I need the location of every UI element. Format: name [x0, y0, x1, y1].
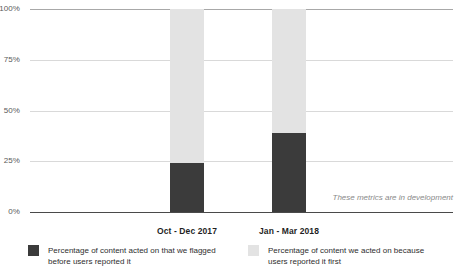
chart-legend: Percentage of content acted on that we f… [28, 245, 448, 267]
stacked-bar-chart: 100% 75% 50% 25% 0% Oct - Dec 2017 Jan -… [0, 0, 457, 278]
gridline-25 [30, 161, 453, 162]
gridline-75 [30, 60, 453, 61]
legend-item-label: Percentage of content acted on that we f… [48, 245, 218, 267]
bar-segment-reported-first[interactable] [272, 9, 306, 133]
x-tick-label: Jan - Mar 2018 [229, 226, 349, 236]
bar-segment-flagged-first[interactable] [272, 133, 306, 212]
y-tick-label: 75% [0, 56, 20, 64]
y-tick-label: 25% [0, 157, 20, 165]
bar-segment-reported-first[interactable] [170, 9, 204, 163]
legend-item-label: Percentage of content we acted on becaus… [268, 245, 438, 267]
plot-area: 100% 75% 50% 25% 0% Oct - Dec 2017 Jan -… [30, 9, 453, 212]
bar-stack [170, 9, 204, 212]
chart-annotation: These metrics are in development [333, 193, 454, 203]
legend-item-reported-first[interactable]: Percentage of content we acted on becaus… [248, 245, 448, 267]
bar-group[interactable] [272, 9, 306, 212]
legend-swatch-icon [28, 245, 39, 256]
bar-stack [272, 9, 306, 212]
bar-segment-flagged-first[interactable] [170, 163, 204, 212]
x-axis-baseline [30, 212, 453, 213]
legend-item-flagged-first[interactable]: Percentage of content acted on that we f… [28, 245, 248, 267]
y-tick-label: 50% [0, 107, 20, 115]
bar-group[interactable] [170, 9, 204, 212]
legend-swatch-icon [248, 245, 259, 256]
y-tick-label: 100% [0, 5, 20, 13]
y-tick-label: 0% [0, 208, 20, 216]
gridline-50 [30, 111, 453, 112]
gridline-100 [30, 9, 453, 10]
